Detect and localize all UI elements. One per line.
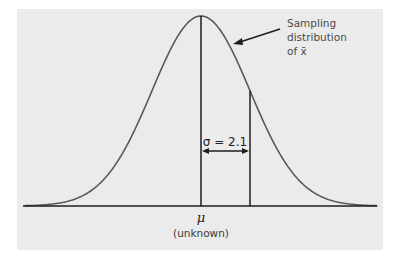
annotation-line-3: of x̄ bbox=[287, 45, 307, 57]
annotation-line-2: distribution bbox=[287, 31, 347, 43]
annotation-line-1: Sampling bbox=[287, 17, 336, 29]
mean-unknown-note: (unknown) bbox=[173, 227, 229, 239]
sampling-distribution-diagram: σ = 2.1 μ (unknown) Sampling distributio… bbox=[0, 0, 400, 257]
sigma-label: σ = 2.1 bbox=[203, 135, 247, 149]
mean-symbol: μ bbox=[197, 210, 205, 225]
